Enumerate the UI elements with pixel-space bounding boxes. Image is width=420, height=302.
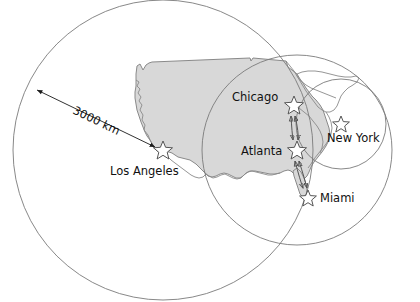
city-label-atlanta: Atlanta [241,144,282,158]
city-label-new-york: New York [327,131,380,145]
city-label-los-angeles: Los Angeles [110,164,179,178]
map-canvas: 3000 km Los Angeles Chicago New York Atl… [0,0,420,302]
us-distance-range-map: 3000 km Los Angeles Chicago New York Atl… [0,0,420,302]
scale-distance-label: 3000 km [71,103,123,138]
star-marker-new-york[interactable] [333,116,350,132]
city-label-miami: Miami [320,191,355,205]
city-label-chicago: Chicago [232,90,278,104]
united-states-landmass [135,58,330,180]
